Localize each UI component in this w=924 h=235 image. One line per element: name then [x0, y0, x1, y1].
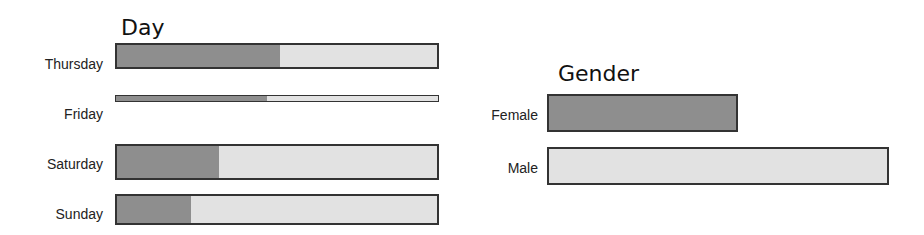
gender-label-male: Male	[508, 161, 538, 175]
day-bar-saturday-dark	[117, 146, 219, 178]
day-bar-saturday	[115, 144, 439, 180]
gender-label-female: Female	[491, 108, 538, 122]
day-bar-friday-dark	[116, 96, 267, 101]
day-label-sunday: Sunday	[56, 207, 103, 221]
gender-chart-title: Gender	[558, 63, 639, 85]
day-bar-friday	[115, 95, 439, 102]
day-bar-sunday	[115, 194, 439, 225]
day-bar-thursday	[115, 43, 439, 69]
day-label-friday: Friday	[64, 107, 103, 121]
gender-bar-female	[547, 94, 738, 132]
day-bar-sunday-dark	[117, 196, 191, 223]
gender-bar-male	[547, 147, 889, 185]
day-bar-thursday-dark	[117, 45, 280, 67]
day-chart-title: Day	[121, 17, 164, 39]
day-label-saturday: Saturday	[47, 157, 103, 171]
day-label-thursday: Thursday	[45, 57, 103, 71]
